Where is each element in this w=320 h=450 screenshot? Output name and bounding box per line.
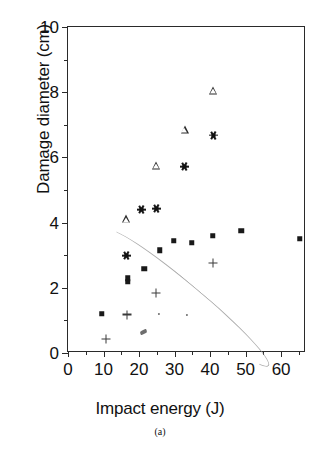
data-point-open-triangle (209, 86, 217, 94)
data-point-small-dot (158, 313, 160, 315)
x-tick-0 (68, 351, 69, 357)
x-minor-tick-65 (299, 351, 300, 355)
y-tick-2 (62, 288, 68, 289)
data-point-filled-square (157, 248, 163, 254)
figure-caption: (a) (0, 426, 320, 437)
data-point-asterisk (209, 131, 218, 140)
data-point-asterisk (180, 162, 189, 171)
x-tick-10 (104, 351, 105, 357)
x-tick-label-60: 60 (272, 361, 291, 378)
y-minor-tick-9 (64, 60, 68, 61)
y-minor-tick-1 (64, 320, 68, 321)
x-tick-label-0: 0 (63, 361, 72, 378)
x-tick-20 (139, 351, 140, 357)
x-tick-40 (210, 351, 211, 357)
plot-area: 0246810 0102030405060 (67, 26, 305, 352)
x-minor-tick-35 (192, 351, 193, 355)
data-point-open-triangle (152, 161, 160, 169)
x-tick-label-10: 10 (94, 361, 113, 378)
y-minor-tick-7 (64, 125, 68, 126)
data-point-filled-square (297, 236, 303, 242)
data-point-filled-square (99, 311, 105, 317)
x-tick-label-30: 30 (165, 361, 184, 378)
x-axis-label: Impact energy (J) (0, 399, 320, 419)
y-minor-tick-3 (64, 255, 68, 256)
y-tick-8 (62, 92, 68, 93)
data-point-plus (102, 335, 111, 344)
data-point-filled-square (125, 275, 131, 281)
y-tick-label-4: 4 (50, 214, 59, 231)
x-tick-label-40: 40 (201, 361, 220, 378)
x-minor-tick-5 (86, 351, 87, 355)
data-point-filled-square (189, 240, 195, 246)
y-tick-label-0: 0 (50, 345, 59, 362)
data-point-filled-square (239, 228, 245, 234)
data-point-open-triangle (122, 215, 130, 223)
y-tick-label-2: 2 (50, 279, 59, 296)
data-point-plus (123, 310, 132, 319)
x-tick-label-50: 50 (236, 361, 255, 378)
data-point-filled-square (210, 233, 216, 239)
data-point-filled-square (125, 279, 131, 285)
x-minor-tick-25 (157, 351, 158, 355)
data-point-plus (208, 259, 217, 268)
y-tick-4 (62, 223, 68, 224)
scan-arc-artifact (99, 220, 277, 375)
data-point-asterisk (137, 205, 146, 214)
x-minor-tick-15 (121, 351, 122, 355)
y-tick-6 (62, 157, 68, 158)
figure-panel: Damage diameter (cm) 0246810 01020304050… (0, 0, 320, 450)
x-minor-tick-45 (228, 351, 229, 355)
x-tick-30 (175, 351, 176, 357)
x-tick-label-20: 20 (130, 361, 149, 378)
data-point-filled-square (171, 238, 177, 244)
y-tick-label-6: 6 (50, 149, 59, 166)
y-tick-label-10: 10 (40, 19, 59, 36)
y-tick-10 (62, 27, 68, 28)
y-tick-label-8: 8 (50, 84, 59, 101)
scan-smudge-artifact (139, 328, 147, 335)
y-minor-tick-5 (64, 190, 68, 191)
x-tick-60 (281, 351, 282, 357)
data-point-asterisk (152, 204, 161, 213)
data-point-open-triangle (181, 125, 189, 133)
